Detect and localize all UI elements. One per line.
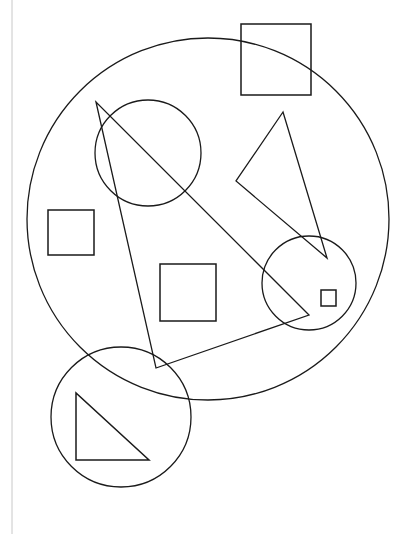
geometric-figure: [0, 0, 408, 534]
drawing-canvas: [0, 0, 408, 534]
